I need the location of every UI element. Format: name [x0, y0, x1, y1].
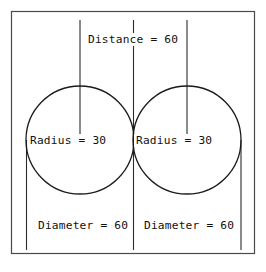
distance-label: Distance = 60	[86, 33, 180, 46]
diameter-left-label: Diameter = 60	[36, 219, 130, 232]
radius-left-label: Radius = 30	[28, 134, 108, 147]
diagram-canvas: Distance = 60 Radius = 30 Radius = 30 Di…	[0, 0, 266, 272]
diameter-right-label: Diameter = 60	[142, 219, 236, 232]
radius-right-label: Radius = 30	[134, 134, 214, 147]
